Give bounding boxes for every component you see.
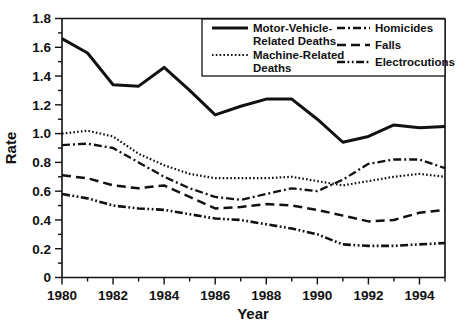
series-line-1 [62,131,445,186]
y-tick-label: 1.4 [32,69,51,84]
y-tick-label: 0.6 [32,184,51,199]
x-tick-label: 1984 [149,288,180,303]
y-tick-label: 1.2 [32,98,51,113]
y-tick-label: 0 [43,270,51,285]
x-axis-ticks [62,278,445,285]
legend-label-3: Falls [375,39,401,51]
y-tick-label: 1.6 [32,40,51,55]
legend-label-0-line2: Related Deaths [253,35,336,47]
chart-container: 00.20.40.60.81.01.21.41.61.8 19801982198… [0,0,470,328]
x-tick-label: 1994 [404,288,435,303]
y-tick-label: 0.4 [32,213,51,228]
x-axis-tick-labels: 19801982198419861988199019921994 [47,288,435,303]
y-tick-label: 1.0 [32,126,51,141]
series-line-3 [62,175,445,221]
legend-label-2: Homicides [375,22,433,34]
y-tick-label: 0.2 [32,242,51,257]
x-tick-label: 1988 [251,288,282,303]
y-tick-label: 0.8 [32,155,51,170]
x-tick-label: 1982 [98,288,128,303]
x-tick-label: 1980 [47,288,77,303]
legend-label-1-line2: Deaths [253,62,291,74]
x-tick-label: 1986 [200,288,231,303]
y-axis-title: Rate [2,132,19,165]
x-tick-label: 1990 [302,288,332,303]
x-axis-title: Year [237,305,269,322]
series-line-4 [62,194,445,246]
line-chart: 00.20.40.60.81.01.21.41.61.8 19801982198… [0,0,470,328]
y-axis-ticks [55,19,62,278]
legend: Motor-Vehicle-Related DeathsMachine-Rela… [202,19,455,76]
y-axis-tick-labels: 00.20.40.60.81.01.21.41.61.8 [32,11,51,285]
legend-label-4: Electrocutions [375,56,455,68]
series-line-2 [62,144,445,200]
x-tick-label: 1992 [353,288,383,303]
legend-label-0: Motor-Vehicle- [253,22,332,34]
y-tick-label: 1.8 [32,11,51,26]
legend-label-1: Machine-Related [253,49,344,61]
